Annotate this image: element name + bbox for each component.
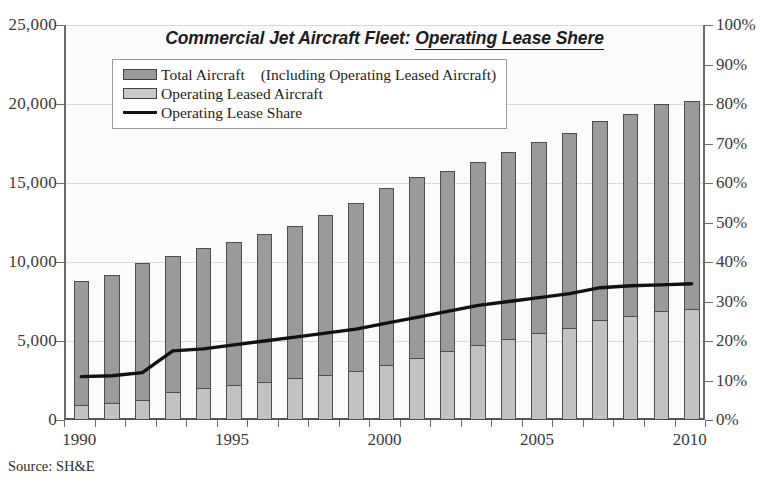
x-axis-tick (552, 420, 553, 427)
bar-operating-leased-aircraft (196, 388, 212, 420)
x-axis-tick (278, 420, 279, 427)
legend-swatch-total-aircraft-icon (123, 69, 157, 80)
x-axis-tick-label: 2010 (655, 430, 725, 450)
chart-legend: Total Aircraft (Including Operating Leas… (112, 59, 507, 129)
x-axis-tick (613, 420, 614, 427)
bar-operating-leased-aircraft (135, 400, 151, 420)
x-axis-tick-label: 2000 (350, 430, 420, 450)
x-axis-tick (64, 420, 65, 427)
y-axis-right-tick-label: 70% (716, 134, 747, 154)
x-axis-tick-label: 1995 (197, 430, 267, 450)
x-axis-tick (247, 420, 248, 427)
legend-item-total-aircraft: Total Aircraft (Including Operating Leas… (123, 65, 496, 84)
y-axis-right-tick (705, 341, 713, 342)
chart-title-plain: Commercial Jet Aircraft Fleet: (165, 28, 415, 48)
y-axis-left-tick-label: 25,000 (8, 15, 57, 35)
y-axis-left-tick-label: 15,000 (8, 173, 57, 193)
x-axis-tick (461, 420, 462, 427)
bar-operating-leased-aircraft (257, 382, 273, 420)
bar-operating-leased-aircraft (287, 378, 303, 420)
legend-item-operating-lease-share: Operating Lease Share (123, 103, 496, 122)
y-axis-right-tick-label: 80% (716, 94, 747, 114)
source-note: Source: SH&E (8, 458, 95, 475)
x-axis-tick (644, 420, 645, 427)
x-axis-tick-label: 1990 (44, 430, 114, 450)
bar-operating-leased-aircraft (318, 375, 334, 420)
legend-label-operating-lease-share: Operating Lease Share (161, 105, 302, 121)
y-axis-left-tick (56, 420, 64, 421)
y-axis-right-tick-label: 0% (716, 410, 739, 430)
x-axis-tick (369, 420, 370, 427)
y-axis-left-tick (56, 341, 64, 342)
gridline (66, 25, 703, 26)
bar-operating-leased-aircraft (592, 320, 608, 420)
x-axis-tick (675, 420, 676, 427)
bar-total-aircraft (74, 281, 90, 420)
bar-operating-leased-aircraft (623, 316, 639, 420)
bar-operating-leased-aircraft (104, 403, 120, 420)
y-axis-right-tick (705, 223, 713, 224)
x-axis-tick (491, 420, 492, 427)
bar-operating-leased-aircraft (226, 385, 242, 420)
x-axis-tick (400, 420, 401, 427)
bar-operating-leased-aircraft (440, 351, 456, 420)
y-axis-left-tick-label: 20,000 (8, 94, 57, 114)
bar-operating-leased-aircraft (348, 371, 364, 420)
legend-label-total-aircraft: Total Aircraft (Including Operating Leas… (161, 67, 496, 83)
y-axis-left-tick (56, 262, 64, 263)
x-axis-tick (217, 420, 218, 427)
y-axis-right-tick-label: 50% (716, 213, 747, 233)
bar-operating-leased-aircraft (379, 365, 395, 420)
bar-operating-leased-aircraft (501, 339, 517, 420)
y-axis-right-tick-label: 10% (716, 371, 747, 391)
chart-figure: 05,00010,00015,00020,00025,000 0%10%20%3… (0, 0, 769, 491)
x-axis-tick (95, 420, 96, 427)
bar-total-aircraft (104, 275, 120, 420)
bar-operating-leased-aircraft (562, 328, 578, 420)
y-axis-right-tick (705, 262, 713, 263)
y-axis-right-tick (705, 420, 713, 421)
x-axis-tick (430, 420, 431, 427)
chart-title-underlined: Operating Lease Shere (415, 28, 604, 50)
bar-operating-leased-aircraft (531, 333, 547, 420)
y-axis-right-tick (705, 104, 713, 105)
x-axis-tick (308, 420, 309, 427)
y-axis-right-tick-label: 90% (716, 55, 747, 75)
y-axis-right-tick-label: 40% (716, 252, 747, 272)
bar-operating-leased-aircraft (74, 405, 90, 420)
x-axis-tick (339, 420, 340, 427)
bar-operating-leased-aircraft (684, 309, 700, 420)
x-axis-tick (522, 420, 523, 427)
y-axis-right-tick (705, 25, 713, 26)
y-axis-left-tick (56, 183, 64, 184)
y-axis-right-tick (705, 381, 713, 382)
x-axis-tick (583, 420, 584, 427)
bar-operating-leased-aircraft (409, 358, 425, 420)
x-axis-tick-label: 2005 (502, 430, 572, 450)
y-axis-right-tick-label: 30% (716, 292, 747, 312)
y-axis-right-tick (705, 65, 713, 66)
chart-title: Commercial Jet Aircraft Fleet: Operating… (64, 28, 705, 49)
y-axis-left-tick (56, 104, 64, 105)
y-axis-left-tick-label: 5,000 (17, 331, 57, 351)
y-axis-right-tick-label: 20% (716, 331, 747, 351)
y-axis-right-tick-label: 100% (716, 15, 756, 35)
x-axis-tick (705, 420, 706, 427)
x-axis-tick (125, 420, 126, 427)
bar-operating-leased-aircraft (654, 311, 670, 420)
legend-swatch-operating-leased-aircraft-icon (123, 88, 157, 99)
bar-operating-leased-aircraft (470, 345, 486, 420)
y-axis-right-tick-label: 60% (716, 173, 747, 193)
y-axis-left-tick-label: 10,000 (8, 252, 57, 272)
legend-swatch-operating-lease-share-icon (123, 107, 157, 118)
bar-operating-leased-aircraft (165, 392, 181, 420)
y-axis-right-tick (705, 144, 713, 145)
y-axis-right-tick (705, 183, 713, 184)
y-axis-right-tick (705, 302, 713, 303)
legend-item-operating-leased-aircraft: Operating Leased Aircraft (123, 84, 496, 103)
legend-label-operating-leased-aircraft: Operating Leased Aircraft (161, 86, 323, 102)
bar-total-aircraft (135, 263, 151, 420)
y-axis-left-tick (56, 25, 64, 26)
x-axis-tick (156, 420, 157, 427)
x-axis-tick (186, 420, 187, 427)
